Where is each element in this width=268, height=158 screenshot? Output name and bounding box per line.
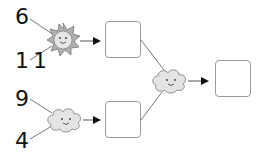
- connector-line: [141, 40, 164, 70]
- sun-icon: [47, 23, 80, 56]
- arrow-head-icon: [93, 37, 101, 45]
- connector-line: [30, 19, 54, 35]
- cloud-icon: [48, 109, 81, 132]
- connector-line: [30, 126, 52, 139]
- input-number-4: 4: [15, 130, 29, 152]
- input-number-9: 9: [15, 88, 29, 110]
- arrow-head-icon: [201, 77, 209, 85]
- connector-line: [141, 92, 162, 120]
- answer-box-2[interactable]: [105, 101, 141, 138]
- input-number-11: 11: [15, 50, 51, 72]
- answer-box-1[interactable]: [105, 21, 141, 58]
- cloud-icon: [153, 70, 186, 93]
- connector-line: [30, 99, 52, 113]
- answer-box-3[interactable]: [215, 60, 251, 97]
- arrow-head-icon: [93, 116, 101, 124]
- input-number-6: 6: [15, 6, 29, 28]
